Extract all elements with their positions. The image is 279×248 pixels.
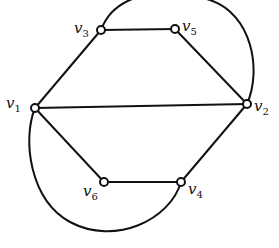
label-v2: v2 [254,99,269,117]
node-v6 [100,178,108,186]
label-v6: v6 [83,184,98,202]
edge-v4-v2 [181,104,247,182]
edge-v3-v5 [101,29,175,30]
edge-v1-v6 [35,108,104,182]
edge-v1-v3 [35,30,101,108]
label-v5: v5 [182,19,197,37]
graph-canvas [0,0,279,248]
node-v4 [177,178,185,186]
label-v4: v4 [188,182,203,200]
edge-v5-v2 [175,29,247,104]
label-v3: v3 [74,21,89,39]
node-v2 [243,100,251,108]
edge-v1-v2 [35,104,247,108]
node-v5 [171,25,179,33]
node-v3 [97,26,105,34]
label-v1: v1 [6,96,21,114]
node-v1 [31,104,39,112]
